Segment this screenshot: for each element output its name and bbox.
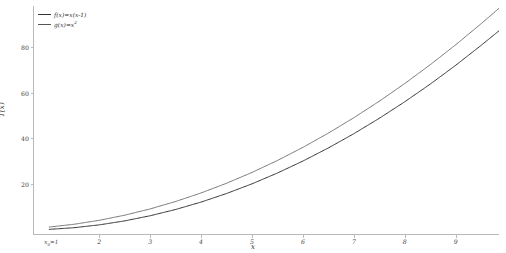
series-curves xyxy=(33,6,499,234)
x-tick-label: 3 xyxy=(148,238,152,245)
y-tick-mark xyxy=(31,93,34,94)
legend-entry-1: f(x)=x(x-1) xyxy=(38,11,86,18)
y-axis-title: T(x) xyxy=(0,102,6,117)
y-tick-mark xyxy=(31,47,34,48)
chart-figure: 20406080 23456789 x0=1 T(x) x f(x)=x(x-1… xyxy=(0,0,506,253)
series-line-2 xyxy=(49,8,499,227)
x-tick-label: 2 xyxy=(97,238,101,245)
y-tick-mark xyxy=(31,184,34,185)
series-line-1 xyxy=(49,31,499,230)
y-tick-label: 80 xyxy=(17,44,29,51)
y-tick-label: 60 xyxy=(17,89,29,96)
legend-label: g(x)=x2 xyxy=(54,20,77,28)
x-tick-label: 4 xyxy=(199,238,203,245)
x-origin-annotation: x0=1 xyxy=(44,239,58,247)
x-axis-spine xyxy=(33,234,499,235)
x-tick-label: 8 xyxy=(403,238,407,245)
x-axis-title: x xyxy=(251,243,255,251)
legend-swatch-line-icon xyxy=(38,14,51,15)
x-tick-label: 6 xyxy=(301,238,305,245)
y-tick-label: 40 xyxy=(17,135,29,142)
y-tick-label: 20 xyxy=(17,180,29,187)
legend-entry-2: g(x)=x2 xyxy=(38,21,86,28)
x-tick-label: 7 xyxy=(352,238,356,245)
legend-swatch-line-icon xyxy=(38,24,51,25)
legend-label: f(x)=x(x-1) xyxy=(54,12,86,18)
chart-legend: f(x)=x(x-1)g(x)=x2 xyxy=(38,11,86,28)
y-tick-mark xyxy=(31,138,34,139)
x-tick-label: 9 xyxy=(454,238,458,245)
plot-area xyxy=(33,6,499,234)
